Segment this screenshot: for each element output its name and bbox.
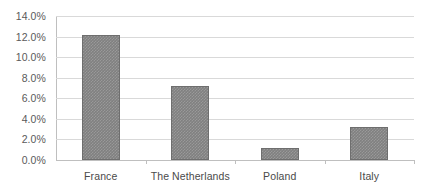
bar-poland[interactable] [261,148,299,160]
x-tick-label-italy: Italy [359,170,379,182]
y-axis: 14.0% 12.0% 10.0% 8.0% 6.0% 4.0% 2.0% 0.… [0,0,52,196]
bar-slot-italy [325,16,415,160]
y-tick-label: 6.0% [22,92,46,104]
bars-layer [56,16,414,160]
x-axis-tick [325,160,326,164]
x-tick-label-the-netherlands: The Netherlands [151,170,230,182]
bar-france[interactable] [82,35,120,160]
y-tick-label: 0.0% [22,154,46,166]
y-tick-label: 10.0% [16,51,46,63]
bar-italy[interactable] [350,127,388,160]
x-axis: France The Netherlands Poland Italy [56,168,414,192]
bar-chart: 14.0% 12.0% 10.0% 8.0% 6.0% 4.0% 2.0% 0.… [0,0,429,196]
bar-slot-poland [235,16,325,160]
y-tick-label: 8.0% [22,72,46,84]
x-tick-label-france: France [84,170,117,182]
bar-slot-france [56,16,146,160]
bar-the-netherlands[interactable] [171,86,209,160]
y-tick-label: 14.0% [16,10,46,22]
x-axis-tick [146,160,147,164]
y-tick-label: 4.0% [22,113,46,125]
x-axis-tick [235,160,236,164]
x-tick-label-poland: Poland [263,170,296,182]
x-axis-tick [414,160,415,164]
y-tick-label: 2.0% [22,133,46,145]
bar-slot-the-netherlands [146,16,236,160]
plot-area [56,16,414,160]
y-tick-label: 12.0% [16,31,46,43]
